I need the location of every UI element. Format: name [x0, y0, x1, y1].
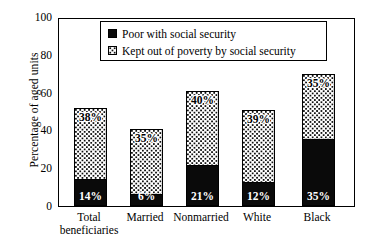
bar-segment-poor-with-social-security: 35%: [302, 140, 335, 206]
bar-value-label: 14%: [79, 191, 102, 203]
bar-group-nonmarried: 40% 21%: [186, 91, 219, 206]
bar-segment-poor-with-social-security: 21%: [186, 166, 219, 206]
bar-value-label: 40%: [190, 95, 215, 107]
bar-group-married: 35% 6%: [130, 129, 163, 206]
bar-value-label: 35%: [307, 191, 330, 203]
bar-value-label: 6%: [138, 191, 155, 203]
y-tick-label-80: 80: [12, 50, 52, 62]
solid-black-swatch-icon: [108, 29, 117, 38]
bar-value-label: 35%: [306, 78, 331, 90]
dotted-swatch-icon: [108, 46, 117, 55]
bar-segment-poor-with-social-security: 6%: [130, 195, 163, 206]
bar-value-label: 21%: [191, 191, 214, 203]
bar-chart: Percentage of aged units 100 80 60 40 20…: [0, 0, 377, 249]
y-tick-label-20: 20: [12, 163, 52, 175]
bar-segment-kept-out-of-poverty: 40%: [186, 91, 219, 167]
y-tick-label-60: 60: [12, 88, 52, 100]
legend-item-label: Poor with social security: [122, 28, 236, 40]
x-category-line-2: beneficiaries: [46, 224, 132, 237]
bar-segment-kept-out-of-poverty: 35%: [302, 74, 335, 140]
bar-value-label: 12%: [247, 191, 270, 203]
legend-item-label: Kept out of poverty by social security: [122, 45, 296, 57]
bar-segment-kept-out-of-poverty: 35%: [130, 129, 163, 195]
y-tick-label-40: 40: [12, 126, 52, 138]
y-tick-label-100: 100: [12, 12, 52, 24]
bar-segment-kept-out-of-poverty: 39%: [242, 110, 275, 184]
x-category-label-black: Black: [274, 211, 360, 224]
bar-segment-poor-with-social-security: 14%: [74, 180, 107, 207]
bar-value-label: 39%: [246, 114, 271, 126]
legend-item-poor-with-social-security: Poor with social security: [108, 25, 326, 42]
bar-group-black: 35% 35%: [302, 74, 335, 206]
legend: Poor with social security Kept out of po…: [100, 21, 327, 61]
x-category-line-1: Black: [274, 211, 360, 224]
bar-value-label: 38%: [78, 112, 103, 124]
bar-value-label: 35%: [134, 133, 159, 145]
legend-item-kept-out-of-poverty: Kept out of poverty by social security: [108, 42, 326, 59]
bar-group-total-beneficiaries: 38% 14%: [74, 108, 107, 206]
bar-segment-kept-out-of-poverty: 38%: [74, 108, 107, 180]
bar-segment-poor-with-social-security: 12%: [242, 183, 275, 206]
bar-group-white: 39% 12%: [242, 110, 275, 206]
